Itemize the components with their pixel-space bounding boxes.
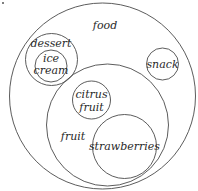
- set-citrus-fruit: citrus fruit: [73, 81, 111, 119]
- set-ice-cream: ice cream: [34, 50, 69, 82]
- citrus-fruit-label-line-2: fruit: [78, 101, 104, 114]
- strawberries-label: strawberries: [89, 140, 160, 153]
- set-snack: snack: [146, 48, 178, 80]
- corner-mark: [2, 2, 4, 4]
- euler-diagram: food dessert ice cream snack fruit citru…: [0, 0, 198, 191]
- citrus-fruit-label-line-1: citrus: [75, 88, 107, 101]
- ice-cream-label-line-2: cream: [34, 64, 69, 77]
- dessert-label: dessert: [30, 37, 72, 50]
- fruit-label: fruit: [60, 130, 86, 143]
- snack-label: snack: [146, 58, 178, 71]
- food-label: food: [92, 19, 117, 32]
